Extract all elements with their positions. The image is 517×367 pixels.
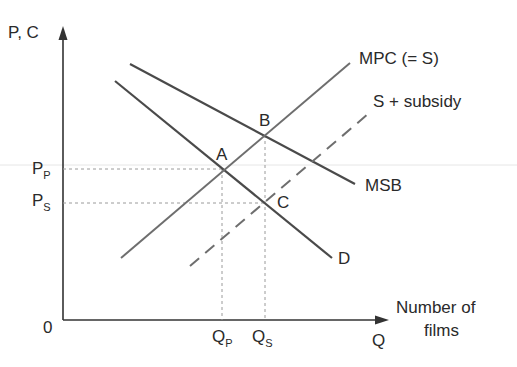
y-axis-label: P, C bbox=[8, 23, 39, 42]
pp-label: PP bbox=[32, 159, 51, 181]
s-subsidy-label: S + subsidy bbox=[373, 92, 462, 111]
msb-curve bbox=[130, 64, 355, 184]
y-axis-arrow-icon bbox=[59, 26, 68, 40]
s-subsidy-curve bbox=[190, 114, 368, 266]
x-axis-desc-line1: Number of bbox=[396, 298, 476, 317]
ps-label: PS bbox=[32, 191, 51, 213]
subsidy-diagram: P, C 0 Q Number of films PP PS QP QS MPC… bbox=[0, 0, 517, 367]
x-axis-desc-line2: films bbox=[424, 321, 459, 340]
origin-label: 0 bbox=[43, 318, 52, 337]
qs-label: QS bbox=[252, 327, 273, 349]
mpc-curve bbox=[121, 63, 350, 258]
point-b-label: B bbox=[259, 111, 270, 130]
point-c-label: C bbox=[277, 193, 289, 212]
x-axis-arrow-icon bbox=[375, 316, 389, 325]
msb-label: MSB bbox=[365, 176, 402, 195]
point-a-label: A bbox=[216, 145, 228, 164]
d-label: D bbox=[338, 249, 350, 268]
mpc-label: MPC (= S) bbox=[359, 49, 439, 68]
qp-label: QP bbox=[212, 327, 233, 349]
x-axis-q-label: Q bbox=[372, 331, 385, 350]
